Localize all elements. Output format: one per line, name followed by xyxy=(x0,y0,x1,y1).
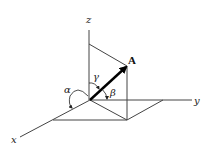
projection-top xyxy=(89,44,127,66)
direction-angles-diagram: z y x A γ β α xyxy=(0,0,211,154)
gamma-label: γ xyxy=(93,71,99,82)
z-axis-label: z xyxy=(85,14,92,25)
x-axis-label: x xyxy=(11,134,17,145)
gamma-arc xyxy=(89,83,99,89)
alpha-arc xyxy=(69,90,88,108)
x-axis xyxy=(20,100,90,137)
vector-a-label: A xyxy=(128,54,136,66)
beta-label: β xyxy=(109,87,116,98)
beta-arc xyxy=(102,89,107,99)
alpha-label: α xyxy=(64,84,71,95)
y-axis-label: y xyxy=(193,95,200,106)
projection-y-parallel xyxy=(127,100,163,120)
projection-xy-diagonal xyxy=(90,100,127,120)
